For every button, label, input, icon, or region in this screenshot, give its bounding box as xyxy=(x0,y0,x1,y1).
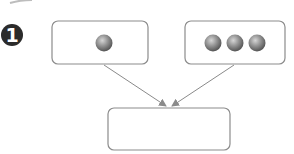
ball xyxy=(227,35,244,52)
ball xyxy=(205,35,222,52)
ball xyxy=(249,35,266,52)
arrow-left-to-result xyxy=(104,65,166,106)
left-ball-group xyxy=(96,35,113,52)
left-box xyxy=(52,21,148,64)
right-box xyxy=(185,21,285,64)
arrow-right-to-result xyxy=(172,65,234,106)
step-badge: 1 xyxy=(1,24,23,46)
ball xyxy=(96,35,113,52)
diagram: 1 xyxy=(0,0,294,154)
step-badge-number: 1 xyxy=(5,24,18,46)
corner-decoration xyxy=(10,0,32,3)
result-box xyxy=(108,108,230,150)
right-ball-group xyxy=(205,35,266,52)
